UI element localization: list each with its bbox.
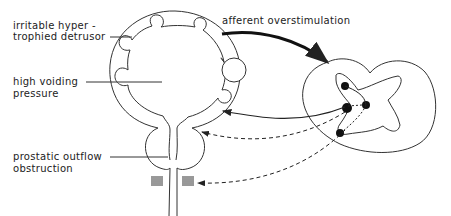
- efferent-arrow-bladder-neck: [202, 112, 345, 139]
- sphincter-hatching-left: [151, 177, 163, 185]
- label-prostate-line2: obstruction: [13, 163, 73, 175]
- bladder: [110, 11, 246, 216]
- label-afferent: afferent overstimulation: [222, 15, 350, 27]
- afferent-arrow: [222, 32, 327, 62]
- neurons: [336, 82, 370, 137]
- label-pressure-line2: pressure: [13, 88, 59, 100]
- efferent-arrow-detrusor: [223, 107, 345, 118]
- leader-lines: [86, 37, 168, 157]
- label-prostate-line1: prostatic outflow: [13, 151, 102, 163]
- label-pressure-line1: high voiding: [13, 76, 78, 88]
- label-detrusor-line2: trophied detrusor: [13, 31, 105, 43]
- sphincter-hatching-right: [182, 177, 194, 185]
